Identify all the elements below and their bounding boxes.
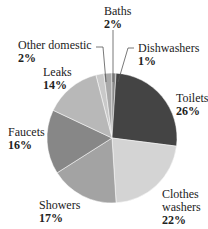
label-dishwashers: Dishwashers1% bbox=[138, 42, 199, 68]
label-toilets: Toilets26% bbox=[176, 92, 208, 118]
label-other-domestic: Other domestic2% bbox=[18, 39, 92, 65]
label-leaks: Leaks14% bbox=[43, 66, 72, 92]
label-clothes-washers: Clotheswashers22% bbox=[162, 188, 201, 227]
pie-slices bbox=[47, 73, 177, 203]
label-showers: Showers17% bbox=[39, 199, 80, 225]
label-baths: Baths2% bbox=[104, 5, 131, 31]
slice-toilets bbox=[112, 73, 177, 146]
label-faucets: Faucets16% bbox=[8, 126, 45, 152]
